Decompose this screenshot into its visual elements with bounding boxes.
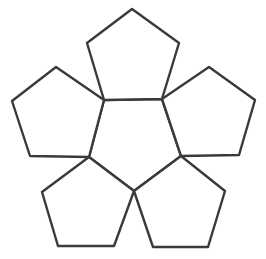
pentagon-upper-left	[12, 67, 104, 157]
pentagon-faces	[12, 9, 255, 247]
pentagon-net-diagram	[0, 0, 266, 259]
pentagon-upper-right	[162, 67, 255, 156]
pentagon-top	[87, 9, 179, 100]
